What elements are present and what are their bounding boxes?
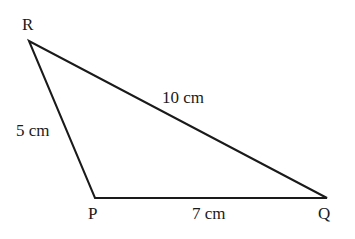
triangle-diagram: R P Q 5 cm 10 cm 7 cm <box>0 0 355 239</box>
triangle-pqr <box>29 41 327 198</box>
vertex-label-p: P <box>88 205 97 222</box>
vertex-label-q: Q <box>318 205 330 222</box>
triangle-figure <box>0 0 355 239</box>
vertex-label-r: R <box>22 16 33 33</box>
side-label-pq: 7 cm <box>192 205 226 222</box>
side-label-rp: 5 cm <box>16 122 50 139</box>
side-label-rq: 10 cm <box>162 89 204 106</box>
